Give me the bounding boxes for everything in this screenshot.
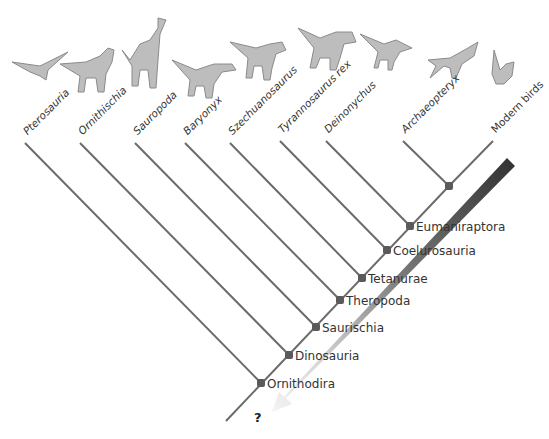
clade-label-tetanurae: Tetanurae — [368, 272, 428, 286]
branch-baryonyx — [185, 143, 340, 300]
branch-archaeopteryx — [403, 141, 449, 186]
node-saurischia — [312, 323, 320, 331]
branch-tyrannosaurus-rex — [280, 141, 387, 250]
node-ornithodira — [257, 379, 265, 387]
node-coelurosauria — [383, 246, 391, 254]
node-tetanurae — [358, 274, 366, 282]
clade-label-eumaniraptora: Eumaniraptora — [416, 220, 505, 234]
clade-label-saurischia: Saurischia — [322, 321, 384, 335]
clade-label-theropoda: Theropoda — [346, 294, 410, 308]
node-bird — [445, 182, 453, 190]
hadrosaur-icon — [60, 48, 114, 92]
clade-label-dinosauria: Dinosauria — [295, 349, 359, 363]
bird-icon — [492, 50, 514, 84]
clade-label-coelurosauria: Coelurosauria — [393, 244, 476, 258]
cladogram: PterosauriaOrnithischiaSauropodaBaryonyx… — [0, 0, 549, 439]
node-eumaniraptora — [406, 222, 414, 230]
branch-modern-birds — [449, 141, 493, 186]
pterosaur-icon — [12, 52, 68, 80]
branch-szechuanosaurus — [230, 143, 362, 278]
branch-pterosauria — [25, 143, 261, 383]
branch-sauropoda — [135, 143, 316, 327]
clade-label-ornithodira: Ornithodira — [267, 377, 335, 391]
branch-ornithischia — [80, 143, 289, 355]
unknown-ancestor-label: ? — [254, 410, 262, 425]
deinonychus-icon — [360, 34, 412, 70]
branch-deinonychus — [326, 141, 410, 226]
szechuanosaurus-icon — [230, 42, 286, 80]
node-theropoda — [336, 296, 344, 304]
baryonyx-icon — [172, 60, 236, 98]
node-dinosauria — [285, 351, 293, 359]
sauropod-icon — [122, 18, 166, 88]
